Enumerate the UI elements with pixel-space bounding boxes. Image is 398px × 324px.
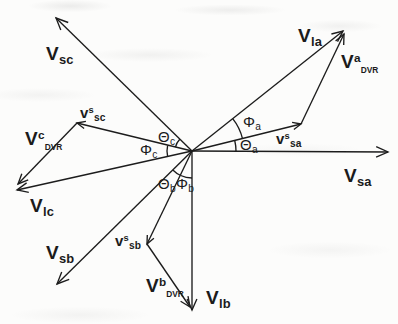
label-sub-v-s-sa: sa (290, 139, 302, 149)
label-v-s-sc: vssc (80, 105, 106, 120)
label-phi-c: Φc (140, 142, 157, 157)
angle-arc-theta-a (235, 141, 236, 151)
vector-v-sa (192, 151, 388, 152)
label-v-lb: Vlb (206, 288, 231, 307)
label-main-v-lc: V (30, 195, 43, 216)
label-main-v-sa: V (344, 165, 357, 186)
label-main-v-lb: V (206, 287, 219, 308)
label-sub-v-c-dvr: DVR (45, 143, 63, 151)
label-v-s-sb: vssb (115, 233, 141, 248)
label-sub-phi-c: c (152, 150, 157, 160)
label-main-v-a-dvr: V (341, 51, 354, 72)
label-sup-v-a-dvr: a (354, 52, 361, 64)
label-sub-phi-b: b (188, 184, 194, 194)
label-theta-b: Θb (158, 176, 176, 191)
label-main-v-s-sc: v (80, 104, 89, 121)
angle-arc-theta-c (175, 139, 179, 147)
label-main-v-s-sb: v (115, 232, 124, 249)
label-phi-a: Φa (243, 114, 261, 129)
label-sub-v-s-sc: sc (94, 113, 106, 123)
label-v-lc: Vlc (30, 196, 54, 215)
label-sub-v-la: la (311, 36, 322, 49)
label-main-v-s-sa: v (276, 130, 285, 147)
label-sub-phi-a: a (255, 122, 261, 132)
vector-v-s-sb (147, 151, 192, 244)
label-v-b-dvr: VbDVR (146, 276, 184, 295)
label-v-la: Vla (298, 26, 322, 45)
label-main-v-c-dvr: V (25, 128, 38, 149)
label-v-s-sa: vssa (276, 131, 302, 146)
label-sub-theta-c: c (170, 137, 175, 147)
label-main-theta-c: Θ (158, 128, 170, 145)
label-v-sc: Vsc (46, 44, 74, 63)
label-main-v-sb: V (46, 242, 59, 263)
label-main-phi-a: Φ (243, 113, 255, 130)
label-sub-v-s-sb: sb (129, 241, 141, 251)
vector-v-la (192, 31, 343, 151)
label-sub-v-sc: sc (59, 54, 74, 67)
label-v-sb: Vsb (46, 243, 74, 262)
angle-arc-phi-c (167, 145, 168, 156)
label-main-v-b-dvr: V (146, 275, 159, 296)
label-v-a-dvr: VaDVR (341, 52, 378, 71)
label-v-sa: Vsa (344, 166, 372, 185)
label-main-v-la: V (298, 25, 311, 46)
label-phi-b: Φb (176, 176, 194, 191)
label-sub-v-sb: sb (59, 253, 74, 266)
label-main-theta-b: Θ (158, 175, 170, 192)
label-sub-v-sa: sa (357, 176, 372, 189)
label-theta-c: Θc (158, 129, 175, 144)
label-sub-theta-a: a (252, 145, 258, 155)
label-sub-v-lc: lc (43, 206, 54, 219)
vector-v-sb (57, 151, 192, 284)
label-theta-a: Θa (240, 137, 258, 152)
label-main-v-sc: V (46, 43, 59, 64)
label-v-c-dvr: VcDVR (25, 129, 62, 148)
label-sub-theta-b: b (170, 184, 176, 194)
label-sup-v-c-dvr: c (38, 129, 45, 141)
label-main-phi-b: Φ (176, 175, 188, 192)
label-main-theta-a: Θ (240, 136, 252, 153)
label-main-phi-c: Φ (140, 141, 152, 158)
label-sub-v-lb: lb (219, 298, 231, 311)
label-sub-v-a-dvr: DVR (361, 66, 379, 74)
label-sup-v-b-dvr: b (159, 276, 166, 288)
phasor-diagram-figure: VscVlaVaDVRvsscVcDVRΘcΦcΦaΘavssaVsaVlcΘb… (0, 0, 398, 324)
label-sub-v-b-dvr: DVR (166, 290, 184, 298)
